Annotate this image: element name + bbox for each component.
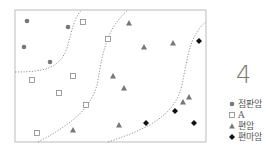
square-point-icon (81, 20, 86, 25)
rock-classification-diagram (0, 0, 266, 152)
legend-label: 점판암 (238, 97, 262, 110)
square-point-icon (57, 91, 62, 96)
legend-label: A (238, 110, 245, 120)
legend: 점판암 A 편암 편마암 (228, 98, 266, 142)
plot-frame (15, 10, 206, 142)
circle-marker-icon (228, 99, 235, 108)
square-point-icon (30, 78, 35, 83)
square-point-icon (106, 37, 111, 42)
square-point-icon (35, 131, 40, 136)
legend-item-slate: 점판암 (228, 98, 266, 109)
circle-point-icon (22, 45, 27, 50)
triangle-marker-icon (228, 121, 235, 130)
square-marker-icon (228, 110, 235, 119)
diamond-marker-icon (228, 132, 235, 141)
circle-point-icon (66, 25, 71, 30)
square-point-icon (84, 103, 89, 108)
circle-point-icon (25, 19, 30, 24)
circle-point-icon (48, 60, 53, 65)
legend-label: 편마암 (238, 130, 262, 143)
panel-number: 4 (236, 63, 251, 87)
square-point-icon (71, 74, 76, 79)
legend-item-gneiss: 편마암 (228, 131, 266, 142)
